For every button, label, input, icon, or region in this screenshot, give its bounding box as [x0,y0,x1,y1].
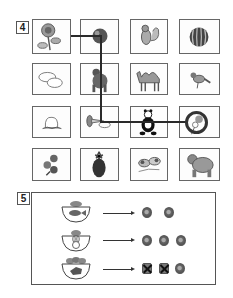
coin [159,235,169,246]
camel-icon [131,64,167,94]
bowl-rabbit-icon [61,227,91,253]
pineapple-icon [81,149,118,180]
question-5-box [31,192,216,285]
answer-circle [185,111,208,134]
question-4-label: 4 [16,21,29,34]
arrow-row-3 [103,269,133,270]
coin [176,235,186,246]
bear-icon [180,149,219,180]
cell-camel[interactable] [130,63,168,95]
coin [164,207,174,218]
flowers-icon [33,149,70,180]
cell-pineapple[interactable] [80,148,119,181]
crossed-out-coin [142,263,152,274]
cell-bear[interactable] [179,148,220,181]
coin [142,235,152,246]
clouds-icon [33,64,70,94]
cell-squirrel[interactable] [130,19,168,54]
path-segment-horizontal-top [71,35,102,37]
cell-clouds[interactable] [32,63,71,95]
bowl-fox-icon [61,255,91,281]
bowl-fish-icon [61,198,91,224]
cell-flowers[interactable] [32,148,71,181]
dogs-icon [131,149,167,180]
watermelon-icon [180,20,219,53]
arrow-row-2 [103,240,133,241]
path-segment-horizontal-bottom [100,121,186,123]
squirrel-icon [131,20,167,53]
crossed-out-coin [159,263,169,274]
cell-peach[interactable] [32,106,71,138]
cell-sparrow[interactable] [179,63,220,95]
cell-watermelon[interactable] [179,19,220,54]
sunflower-icon [33,20,70,53]
path-segment-vertical [100,35,102,123]
coin [142,207,152,218]
cell-dogs[interactable] [130,148,168,181]
coin [175,263,185,274]
arrow-row-1 [103,213,133,214]
sparrow-icon [180,64,219,94]
peach-icon [33,107,70,137]
question-5-label: 5 [17,192,30,205]
cell-sunflower[interactable] [32,19,71,54]
